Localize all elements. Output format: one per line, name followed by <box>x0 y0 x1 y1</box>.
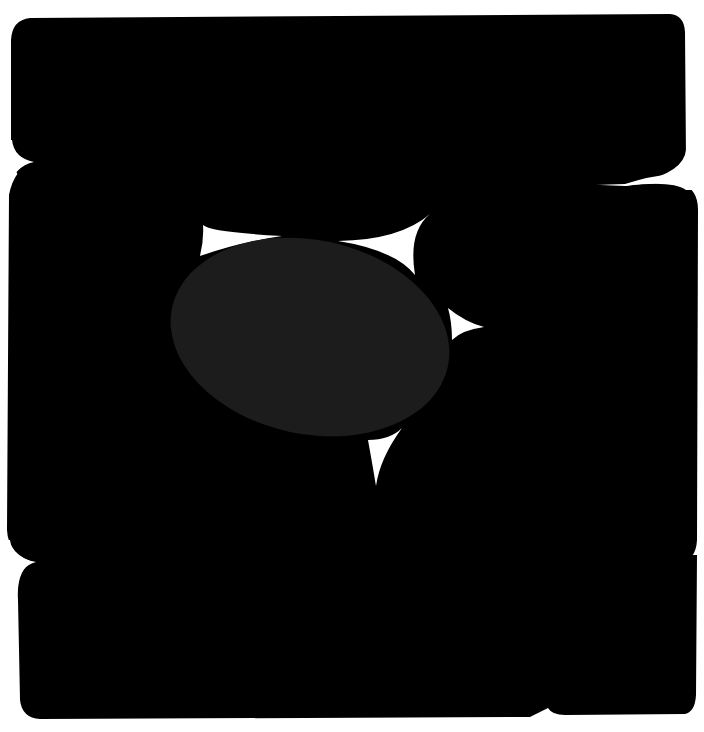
bottom-slab <box>18 555 697 719</box>
top-slab <box>11 14 686 186</box>
abstract-artwork <box>0 0 704 732</box>
artwork-canvas <box>0 0 704 732</box>
